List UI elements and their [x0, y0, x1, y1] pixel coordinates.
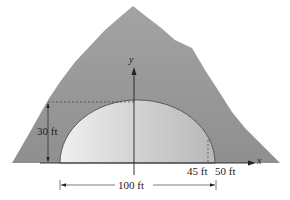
x-axis-label: x: [257, 155, 261, 166]
outer-half-width-label: 50 ft: [215, 165, 235, 177]
arrow-right-icon: [210, 183, 215, 186]
total-width-label: 100 ft: [118, 179, 144, 191]
height-label: 30 ft: [37, 125, 57, 137]
arrow-left-icon: [61, 183, 66, 186]
y-axis-label: y: [129, 54, 133, 65]
inner-half-width-label: 45 ft: [187, 165, 207, 177]
tunnel-diagram: [0, 0, 290, 200]
